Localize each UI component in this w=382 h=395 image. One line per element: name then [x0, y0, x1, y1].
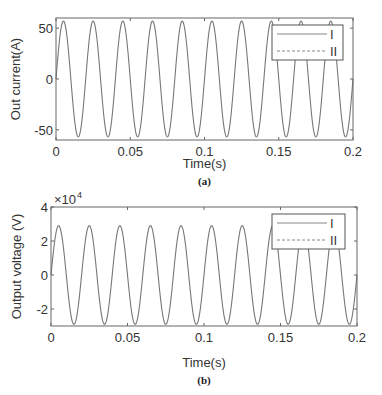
y-tick-label: 0 — [46, 72, 53, 87]
figure-caption: (b) — [197, 374, 211, 387]
figure: 00.050.10.150.2-50050Time(s)Out current(… — [0, 0, 382, 395]
x-tick-label: 0.2 — [344, 144, 362, 159]
y-axis-label: Out current(A) — [8, 38, 23, 120]
figure-caption: (a) — [198, 175, 211, 188]
legend-entry: II — [330, 44, 337, 59]
x-tick-label: 0 — [52, 144, 59, 159]
x-tick-label: 0 — [47, 330, 54, 345]
legend: III — [272, 25, 343, 60]
y-multiplier: ×10 — [54, 192, 76, 207]
y-axis-label: Output voltage (V) — [9, 214, 24, 320]
y-tick-label: 2 — [41, 234, 48, 249]
chart-b: 00.050.10.150.2-2024×104Time(s)Output vo… — [9, 190, 366, 387]
x-axis-label: Time(s) — [183, 156, 227, 171]
svg-text:4: 4 — [77, 190, 82, 200]
x-axis-label: Time(s) — [182, 355, 226, 370]
y-tick-label: -50 — [34, 123, 53, 138]
legend-entry: I — [330, 27, 334, 42]
x-tick-label: 0.15 — [268, 330, 293, 345]
x-tick-label: 0.15 — [266, 144, 291, 159]
y-tick-label: 0 — [41, 268, 48, 283]
legend: III — [272, 214, 345, 249]
y-tick-label: -2 — [36, 302, 48, 317]
x-tick-label: 0.05 — [115, 330, 140, 345]
chart-a: 00.050.10.150.2-50050Time(s)Out current(… — [8, 18, 362, 188]
y-tick-label: 50 — [39, 21, 53, 36]
x-tick-label: 0.1 — [195, 330, 213, 345]
legend-entry: I — [330, 216, 334, 231]
legend-entry: II — [330, 233, 337, 248]
y-tick-label: 4 — [41, 200, 48, 215]
x-tick-label: 0.05 — [118, 144, 143, 159]
x-tick-label: 0.2 — [348, 330, 366, 345]
